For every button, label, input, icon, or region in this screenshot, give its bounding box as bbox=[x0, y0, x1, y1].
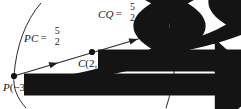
vector-name-CQ: CQ bbox=[98, 6, 114, 20]
right-paren-icon bbox=[124, 0, 241, 57]
vector-diagram-figure: P(−3, 2) C(2, 4) Q(2 + 5, 4 + 2) PC = 5 … bbox=[0, 0, 241, 109]
point-dot-P bbox=[11, 73, 17, 79]
vector-name-PC: PC bbox=[24, 30, 38, 44]
point-label-P-name: P bbox=[3, 81, 10, 93]
column-vector-CQ: 5 2 bbox=[124, 2, 141, 23]
vector-expression-CQ: CQ = 5 2 bbox=[98, 2, 141, 23]
column-vector-PC: 5 2 bbox=[49, 26, 66, 47]
vector-expression-PC: PC = 5 2 bbox=[24, 26, 66, 47]
